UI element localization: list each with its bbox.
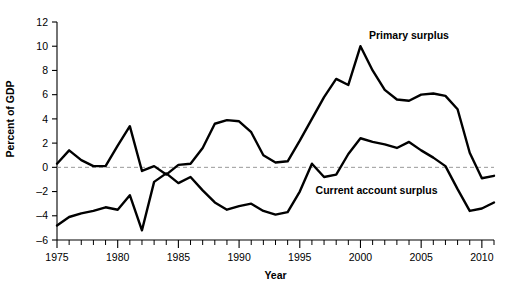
y-tick-label: 8 <box>42 64 48 76</box>
y-tick-label: 12 <box>36 16 48 28</box>
y-tick-label: –2 <box>36 185 48 197</box>
y-tick-label: 10 <box>36 40 48 52</box>
x-tick-label: 2010 <box>470 251 494 263</box>
y-tick-label: –6 <box>36 234 48 246</box>
series-label: Current account surplus <box>316 184 438 196</box>
x-tick-label: 1985 <box>167 251 191 263</box>
line-chart: –6–4–2024681012 197519801985199019952000… <box>0 0 507 283</box>
x-axis-title: Year <box>264 269 286 281</box>
x-tick-label: 1995 <box>288 251 312 263</box>
x-axis-ticks: 19751980198519901995200020052010 <box>45 240 494 263</box>
y-tick-label: 4 <box>42 113 48 125</box>
series-line <box>57 46 494 178</box>
chart-container: –6–4–2024681012 197519801985199019952000… <box>0 0 507 283</box>
x-tick-label: 1990 <box>227 251 251 263</box>
chart-axes <box>57 22 494 240</box>
y-tick-label: 0 <box>42 161 48 173</box>
series-annotations: Primary surplusCurrent account surplus <box>316 29 450 196</box>
x-tick-label: 1975 <box>45 251 69 263</box>
data-series-group <box>57 46 494 230</box>
y-axis-title: Percent of GDP <box>4 80 16 157</box>
x-tick-label: 2005 <box>409 251 433 263</box>
y-axis-ticks: –6–4–2024681012 <box>36 16 57 246</box>
y-tick-label: –4 <box>36 209 48 221</box>
y-tick-label: 2 <box>42 137 48 149</box>
x-tick-label: 1980 <box>106 251 130 263</box>
series-label: Primary surplus <box>369 29 449 41</box>
y-tick-label: 6 <box>42 88 48 100</box>
x-tick-label: 2000 <box>349 251 373 263</box>
